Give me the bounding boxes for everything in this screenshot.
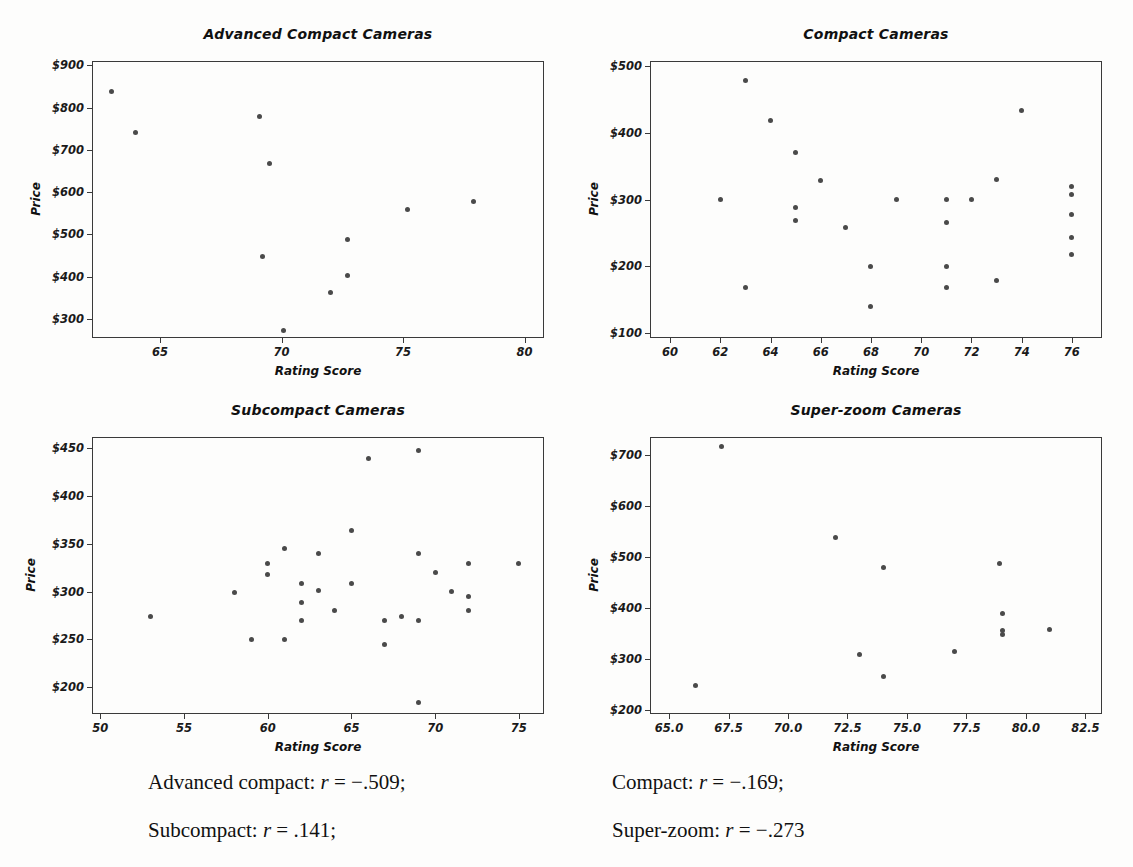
data-point bbox=[944, 285, 949, 290]
xtick-mark-compact-2 bbox=[771, 338, 772, 343]
data-point bbox=[719, 444, 724, 449]
ytick-label-subcompact-2: $300 bbox=[30, 585, 84, 599]
ytick-label-compact-2: $300 bbox=[588, 193, 642, 207]
data-point bbox=[868, 304, 873, 309]
xtick-mark-subcompact-1 bbox=[184, 714, 185, 719]
xtick-mark-superzoom-5 bbox=[966, 714, 967, 719]
ytick-label-advanced-compact-5: $800 bbox=[30, 101, 84, 115]
xtick-label-compact-5: 70 bbox=[913, 345, 929, 359]
data-point bbox=[1069, 192, 1074, 197]
xtick-mark-compact-7 bbox=[1022, 338, 1023, 343]
data-point bbox=[265, 561, 270, 566]
ytick-label-superzoom-0: $200 bbox=[588, 703, 642, 717]
data-point bbox=[793, 205, 798, 210]
xtick-mark-subcompact-2 bbox=[268, 714, 269, 719]
data-point bbox=[1000, 632, 1005, 637]
data-point bbox=[282, 637, 287, 642]
data-point bbox=[693, 683, 698, 688]
xtick-label-superzoom-1: 67.5 bbox=[714, 721, 742, 735]
ytick-label-superzoom-4: $600 bbox=[588, 499, 642, 513]
data-point bbox=[345, 273, 350, 278]
data-point bbox=[1019, 108, 1024, 113]
points-layer-subcompact bbox=[92, 437, 544, 714]
data-point bbox=[366, 456, 371, 461]
data-point bbox=[133, 130, 138, 135]
xtick-mark-compact-6 bbox=[971, 338, 972, 343]
data-point bbox=[249, 637, 254, 642]
xtick-mark-superzoom-7 bbox=[1085, 714, 1086, 719]
data-point bbox=[768, 118, 773, 123]
xtick-mark-subcompact-4 bbox=[435, 714, 436, 719]
ytick-label-compact-0: $100 bbox=[588, 326, 642, 340]
data-point bbox=[433, 570, 438, 575]
ytick-label-subcompact-4: $400 bbox=[30, 489, 84, 503]
data-point bbox=[994, 278, 999, 283]
xtick-mark-subcompact-0 bbox=[100, 714, 101, 719]
xtick-label-subcompact-5: 75 bbox=[511, 721, 527, 735]
xtick-label-subcompact-2: 60 bbox=[260, 721, 276, 735]
xtick-mark-superzoom-4 bbox=[907, 714, 908, 719]
data-point bbox=[1047, 627, 1052, 632]
xtick-label-subcompact-1: 55 bbox=[176, 721, 192, 735]
xtick-mark-superzoom-1 bbox=[729, 714, 730, 719]
data-point bbox=[299, 581, 304, 586]
xtick-mark-superzoom-6 bbox=[1026, 714, 1027, 719]
data-point bbox=[881, 674, 886, 679]
ytick-label-superzoom-5: $700 bbox=[588, 448, 642, 462]
ytick-label-subcompact-0: $200 bbox=[30, 680, 84, 694]
data-point bbox=[265, 572, 270, 577]
data-point bbox=[148, 614, 153, 619]
xtick-mark-advanced-compact-1 bbox=[282, 338, 283, 343]
xtick-label-subcompact-3: 65 bbox=[343, 721, 359, 735]
xtick-label-superzoom-7: 82.5 bbox=[1071, 721, 1099, 735]
xtick-mark-compact-3 bbox=[821, 338, 822, 343]
data-point bbox=[969, 197, 974, 202]
xtick-label-subcompact-0: 50 bbox=[92, 721, 108, 735]
data-point bbox=[257, 114, 262, 119]
xtick-label-superzoom-4: 75.0 bbox=[893, 721, 921, 735]
xtick-mark-advanced-compact-2 bbox=[403, 338, 404, 343]
xtick-label-subcompact-4: 70 bbox=[427, 721, 443, 735]
ytick-label-subcompact-1: $250 bbox=[30, 632, 84, 646]
xtick-mark-advanced-compact-3 bbox=[525, 338, 526, 343]
data-point bbox=[944, 264, 949, 269]
data-point bbox=[349, 528, 354, 533]
ytick-label-advanced-compact-1: $400 bbox=[30, 270, 84, 284]
panel-compact: Compact Cameras Price Rating Score $100$… bbox=[567, 0, 1133, 390]
data-point bbox=[282, 546, 287, 551]
data-point bbox=[1069, 252, 1074, 257]
ytick-label-advanced-compact-6: $900 bbox=[30, 58, 84, 72]
xtick-label-superzoom-0: 65.0 bbox=[655, 721, 683, 735]
xtick-mark-compact-0 bbox=[670, 338, 671, 343]
xtick-label-compact-1: 62 bbox=[712, 345, 728, 359]
figure-page: Advanced Compact Cameras Price Rating Sc… bbox=[0, 0, 1133, 867]
xtick-mark-advanced-compact-0 bbox=[160, 338, 161, 343]
data-point bbox=[881, 565, 886, 570]
data-point bbox=[944, 197, 949, 202]
data-point bbox=[416, 448, 421, 453]
xtick-label-compact-4: 68 bbox=[863, 345, 879, 359]
data-point bbox=[857, 652, 862, 657]
data-point bbox=[416, 551, 421, 556]
data-point bbox=[316, 588, 321, 593]
xtick-mark-superzoom-2 bbox=[788, 714, 789, 719]
xtick-label-advanced-compact-2: 75 bbox=[395, 345, 411, 359]
xtick-label-superzoom-3: 72.5 bbox=[833, 721, 861, 735]
data-point bbox=[267, 161, 272, 166]
xtick-label-superzoom-2: 70.0 bbox=[774, 721, 802, 735]
xtick-label-advanced-compact-1: 70 bbox=[274, 345, 290, 359]
data-point bbox=[997, 561, 1002, 566]
xtick-label-superzoom-5: 77.5 bbox=[952, 721, 980, 735]
caption-compact: Compact: r = −.169; bbox=[612, 770, 784, 795]
xtick-label-compact-0: 60 bbox=[662, 345, 678, 359]
data-point bbox=[416, 618, 421, 623]
data-point bbox=[1069, 235, 1074, 240]
panel-superzoom: Super-zoom Cameras Price Rating Score $2… bbox=[567, 376, 1133, 766]
data-point bbox=[449, 589, 454, 594]
caption-subcompact: Subcompact: r = .141; bbox=[148, 818, 336, 843]
xtick-label-compact-2: 64 bbox=[763, 345, 779, 359]
data-point bbox=[1069, 184, 1074, 189]
caption-advanced-compact: Advanced compact: r = −.509; bbox=[148, 770, 406, 795]
ytick-label-compact-1: $200 bbox=[588, 259, 642, 273]
data-point bbox=[894, 197, 899, 202]
